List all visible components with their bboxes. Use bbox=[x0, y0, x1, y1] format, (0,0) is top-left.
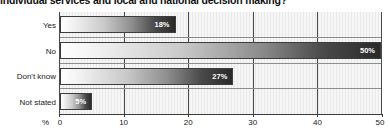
bar-no[interactable]: 50% bbox=[60, 42, 381, 59]
row-separator-3 bbox=[60, 88, 381, 89]
bar-value-label: 50% bbox=[360, 47, 375, 55]
bar-value-label: 5% bbox=[75, 98, 86, 106]
bar-row: 5% bbox=[60, 93, 381, 110]
x-axis-unit-label: % bbox=[42, 119, 49, 127]
x-tick-40 bbox=[317, 114, 318, 117]
x-tick-20 bbox=[188, 114, 189, 117]
row-separator-1 bbox=[60, 37, 381, 38]
bar-yes[interactable]: 18% bbox=[60, 16, 176, 33]
row-separator-2 bbox=[60, 63, 381, 64]
plot-area: 18% 50% 27% 5% bbox=[59, 12, 382, 114]
bar-value-label: 27% bbox=[212, 73, 227, 81]
bar-not-stated[interactable]: 5% bbox=[60, 93, 92, 110]
x-tick-label-50: 50 bbox=[376, 119, 385, 127]
bar-row: 50% bbox=[60, 42, 381, 59]
x-tick-label-20: 20 bbox=[184, 119, 193, 127]
category-label-dont-know: Don't know bbox=[0, 73, 56, 81]
x-tick-10 bbox=[124, 114, 125, 117]
x-tick-label-0: 0 bbox=[58, 119, 62, 127]
bar-value-label: 18% bbox=[155, 21, 170, 29]
x-tick-label-30: 30 bbox=[248, 119, 257, 127]
category-label-not-stated: Not stated bbox=[0, 99, 56, 107]
x-tick-label-10: 10 bbox=[119, 119, 128, 127]
x-tick-30 bbox=[253, 114, 254, 117]
bar-row: 27% bbox=[60, 68, 381, 85]
x-axis-line bbox=[59, 114, 382, 115]
chart-title: individual services and local and nation… bbox=[0, 0, 390, 6]
x-tick-50 bbox=[382, 114, 383, 117]
bar-row: 18% bbox=[60, 16, 381, 33]
category-label-yes: Yes bbox=[0, 22, 56, 30]
category-label-no: No bbox=[0, 48, 56, 56]
x-tick-0 bbox=[59, 114, 60, 117]
x-tick-label-40: 40 bbox=[313, 119, 322, 127]
bar-dont-know[interactable]: 27% bbox=[60, 68, 233, 85]
